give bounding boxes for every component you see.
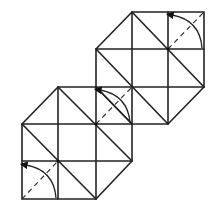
fold-arrow-middle	[94, 87, 132, 126]
fold-arrow-top-right	[166, 12, 204, 51]
crease-pattern-diagram	[0, 0, 214, 211]
fold-arrow-bottom-left	[22, 159, 60, 199]
